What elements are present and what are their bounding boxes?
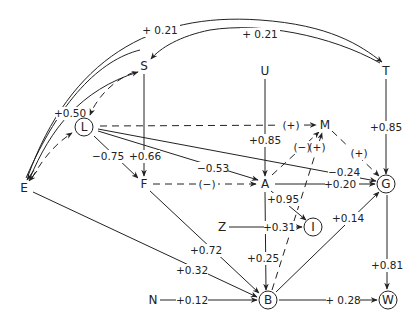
edge-s-l: [90, 72, 134, 115]
edge-b-g: [276, 192, 379, 292]
label-a-g: +0.20: [324, 178, 356, 190]
node-z: Z: [218, 220, 226, 234]
node-w: W: [382, 293, 394, 307]
label-l-g: −0.24: [328, 166, 360, 178]
edge-a-b: [265, 192, 266, 290]
node-b: B: [264, 293, 272, 307]
node-g: G: [381, 177, 390, 191]
node-i: I: [311, 220, 315, 234]
label-n-b: +0.12: [176, 294, 208, 306]
edge-b-m: [272, 133, 322, 290]
label-e-t: + 0.21: [142, 24, 178, 36]
label-e-s: +0.50: [54, 107, 86, 119]
node-m: M: [320, 118, 330, 132]
edge-e-b: [33, 192, 257, 297]
label-b-m: (+): [309, 141, 326, 153]
node-f: F: [141, 177, 148, 191]
label-f-b: +0.72: [190, 244, 222, 256]
node-e: E: [20, 181, 28, 195]
label-b-g: +0.14: [332, 212, 364, 224]
label-b-w: + 0.28: [325, 294, 361, 306]
label-s-f: +0.66: [129, 150, 161, 162]
edge-e-l: [32, 133, 72, 178]
node-a: A: [261, 177, 270, 191]
node-t: T: [381, 64, 390, 78]
node-s: S: [140, 59, 148, 73]
label-a-b: +0.25: [247, 252, 279, 264]
label-e-b: +0.32: [176, 264, 208, 276]
label-f-a: (−): [199, 178, 216, 190]
path-diagram: + 0.21 + 0.21 +0.50 +0.66 −0.75 −0.53 −0…: [0, 0, 420, 323]
label-g-w: +0.81: [371, 259, 403, 271]
label-t-g: +0.85: [370, 121, 402, 133]
label-l-f: −0.75: [92, 150, 124, 162]
label-z-i: +0.31: [263, 221, 295, 233]
label-t-s: + 0.21: [242, 28, 278, 40]
edges: [26, 19, 387, 300]
label-a-i: +0.95: [267, 193, 299, 205]
label-m-g: (+): [351, 147, 368, 159]
label-l-m: (+): [283, 119, 300, 131]
node-u: U: [261, 64, 270, 78]
edge-f-b: [149, 190, 259, 293]
node-l: L: [81, 120, 88, 134]
label-l-a: −0.53: [197, 162, 229, 174]
node-n: N: [149, 293, 158, 307]
label-u-a: +0.85: [249, 134, 281, 146]
